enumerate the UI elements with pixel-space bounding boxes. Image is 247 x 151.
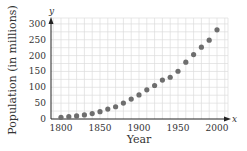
x-tick-label: 1850	[89, 123, 112, 133]
data-point	[66, 114, 71, 119]
data-point	[97, 109, 102, 114]
x-tick-label: 1900	[128, 123, 151, 133]
data-point	[168, 75, 173, 80]
x-tick-label: 1800	[50, 123, 73, 133]
population-chart: 050100150200250300 18001850190019502000 …	[0, 0, 247, 151]
y-tick-label: 200	[29, 51, 46, 61]
data-point	[144, 87, 149, 92]
data-point	[105, 106, 110, 111]
data-point	[183, 60, 188, 65]
chart-grid	[51, 18, 228, 119]
data-point	[74, 113, 79, 118]
data-point	[113, 104, 118, 109]
data-point	[58, 115, 63, 120]
x-tick-label: 2000	[206, 123, 229, 133]
data-point	[90, 111, 95, 116]
chart-axes	[49, 17, 232, 122]
x-tick-labels: 18001850190019502000	[50, 123, 229, 133]
data-point	[160, 77, 165, 82]
y-tick-label: 100	[29, 82, 46, 92]
x-axis-variable: x	[232, 114, 237, 124]
x-axis-title: Year	[126, 133, 152, 146]
y-tick-label: 250	[29, 35, 46, 45]
data-point	[129, 96, 134, 101]
y-tick-label: 300	[29, 19, 46, 29]
y-tick-label: 50	[35, 98, 47, 108]
data-point	[199, 45, 204, 50]
y-axis-title: Population (in millions)	[6, 5, 19, 134]
y-axis-variable: y	[48, 6, 55, 16]
y-tick-label: 150	[29, 66, 46, 76]
data-point	[82, 112, 87, 117]
y-tick-labels: 050100150200250300	[29, 19, 46, 124]
data-point	[136, 92, 141, 97]
data-point	[214, 27, 219, 32]
y-tick-label: 0	[40, 114, 46, 124]
x-axis-arrow-icon	[224, 117, 231, 122]
data-point	[207, 38, 212, 43]
data-point	[152, 83, 157, 88]
x-tick-label: 1950	[167, 123, 190, 133]
data-point	[175, 69, 180, 74]
data-point	[121, 100, 126, 105]
data-point	[191, 52, 196, 57]
